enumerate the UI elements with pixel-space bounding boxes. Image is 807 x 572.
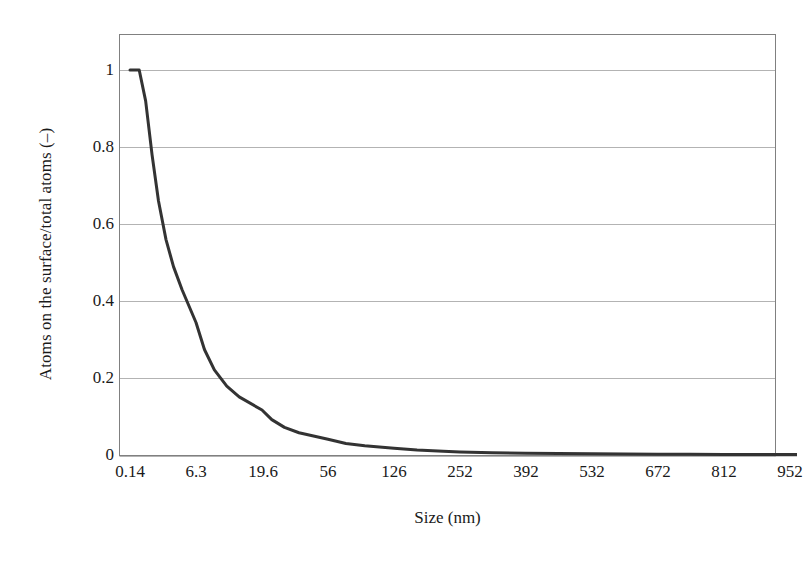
plot-frame [120,35,776,456]
gridlines [120,71,776,457]
data-series-line [130,70,797,455]
